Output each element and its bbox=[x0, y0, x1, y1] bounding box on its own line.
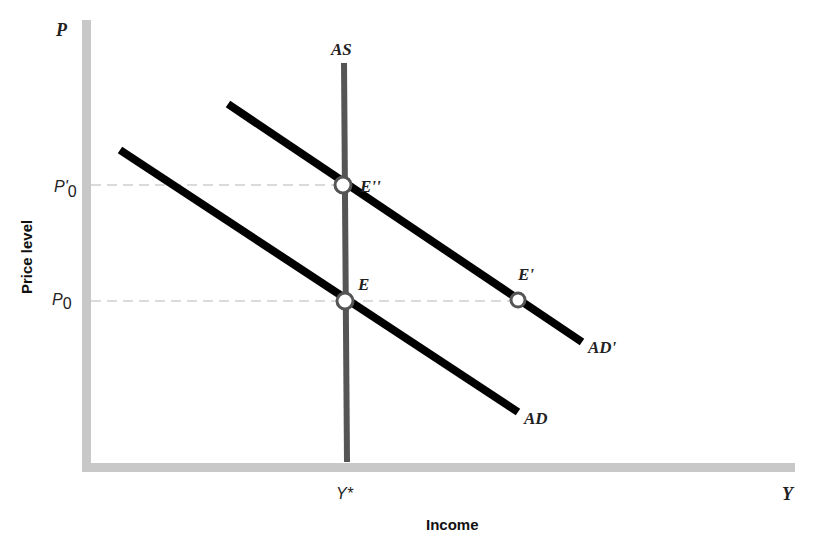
e-double-label: E'' bbox=[359, 177, 381, 196]
e-label: E bbox=[357, 275, 369, 294]
p0-prime-tick: P'0 bbox=[54, 178, 77, 200]
ystar-tick: Y* bbox=[336, 485, 354, 502]
as-label: AS bbox=[330, 40, 352, 59]
y-axis-title: Price level bbox=[18, 220, 35, 294]
y-axis-label: Y bbox=[782, 484, 795, 504]
y-axis bbox=[82, 20, 91, 472]
point-e-double bbox=[335, 177, 351, 193]
ad-as-diagram: P Y AS AD AD' E E'' E' P'0 P0 Y* Income … bbox=[0, 0, 815, 547]
x-axis-title: Income bbox=[426, 516, 479, 533]
point-e bbox=[337, 293, 353, 309]
as-curve bbox=[344, 63, 347, 462]
p0-tick: P0 bbox=[52, 291, 72, 312]
ad-curve bbox=[120, 150, 518, 412]
point-e-prime bbox=[511, 293, 525, 307]
e-prime-label: E' bbox=[517, 265, 534, 284]
p-axis-label: P bbox=[55, 20, 68, 40]
ad-prime-curve bbox=[228, 104, 582, 342]
ad-prime-label: AD' bbox=[587, 338, 617, 357]
x-axis bbox=[82, 463, 795, 472]
ad-label: AD bbox=[523, 409, 548, 428]
